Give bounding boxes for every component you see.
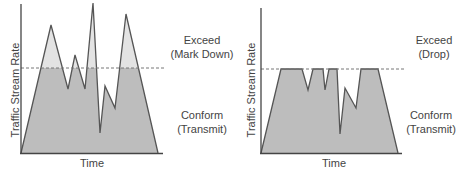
x-axis-label: Time <box>72 156 112 170</box>
y-axis-label: Traffic Stream Rate <box>9 35 21 145</box>
conform-label: Conform <box>172 108 232 122</box>
conform-label: Conform <box>403 108 458 122</box>
exceed-label: Exceed <box>170 33 234 47</box>
drop-diagram <box>260 8 406 154</box>
conform-action: (Transmit) <box>403 122 458 136</box>
conform-action: (Transmit) <box>172 122 232 136</box>
mark-down-diagram <box>20 3 166 154</box>
x-axis-label: Time <box>314 156 354 170</box>
traffic-conform-area <box>261 69 398 153</box>
exceed-action: (Drop) <box>410 47 458 61</box>
traffic-conform-area <box>21 3 158 153</box>
conform-label-block: Conform (Transmit) <box>403 108 458 136</box>
exceed-label: Exceed <box>410 33 458 47</box>
conform-label-block: Conform (Transmit) <box>172 108 232 136</box>
exceed-action: (Mark Down) <box>170 47 234 61</box>
policing-diagrams <box>0 0 458 176</box>
exceed-label-block: Exceed (Drop) <box>410 33 458 61</box>
exceed-label-block: Exceed (Mark Down) <box>170 33 234 61</box>
y-axis-label: Traffic Stream Rate <box>245 35 257 145</box>
